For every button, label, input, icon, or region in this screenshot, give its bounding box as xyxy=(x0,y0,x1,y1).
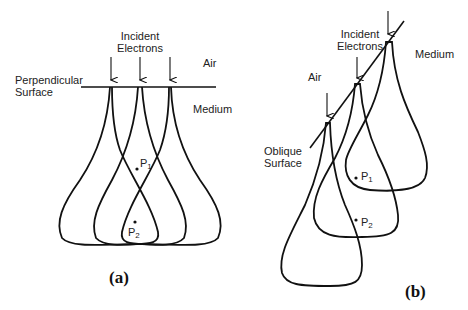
panel-b-graphics xyxy=(281,11,427,286)
interaction-volume-back xyxy=(346,42,427,191)
point-p2-label-a: P2 xyxy=(128,226,140,240)
surface-label-line2: Surface xyxy=(15,86,83,98)
point-p1-label-a: P1 xyxy=(140,157,152,171)
figure-canvas: Incident Electrons Air Perpendicular Sur… xyxy=(0,0,468,310)
panel-b-label: (b) xyxy=(405,282,426,302)
surface-label-b: Oblique Surface xyxy=(264,145,302,169)
panel-a-label: (a) xyxy=(109,268,129,288)
air-label-a: Air xyxy=(203,57,216,69)
incident-label-line2: Electrons xyxy=(330,40,390,52)
incident-label-line1: Incident xyxy=(110,30,170,42)
incident-electrons-label-a: Incident Electrons xyxy=(110,30,170,54)
incident-electrons-label-b: Incident Electrons xyxy=(330,28,390,52)
point-p1-marker xyxy=(135,167,138,170)
medium-label-b: Medium xyxy=(415,48,454,60)
point-subscript: 2 xyxy=(368,221,372,230)
surface-label-line1: Oblique xyxy=(264,145,302,157)
point-p2-marker xyxy=(354,218,357,221)
point-subscript: 1 xyxy=(147,162,151,171)
surface-label-line1: Perpendicular xyxy=(15,74,83,86)
diagram-graphics xyxy=(0,0,468,310)
surface-label-a: Perpendicular Surface xyxy=(15,74,83,98)
point-p1-marker xyxy=(354,176,357,179)
surface-label-line2: Surface xyxy=(264,157,302,169)
point-p1-label-b: P1 xyxy=(361,170,373,184)
point-subscript: 2 xyxy=(135,231,139,240)
point-p2-marker xyxy=(133,220,136,223)
incident-label-line1: Incident xyxy=(330,28,390,40)
air-label-b: Air xyxy=(308,71,321,83)
point-subscript: 1 xyxy=(368,175,372,184)
point-p2-label-b: P2 xyxy=(361,216,373,230)
panel-a-graphics xyxy=(59,57,220,245)
incident-label-line2: Electrons xyxy=(110,42,170,54)
interaction-volume-middle xyxy=(314,84,399,237)
medium-label-a: Medium xyxy=(193,103,232,115)
